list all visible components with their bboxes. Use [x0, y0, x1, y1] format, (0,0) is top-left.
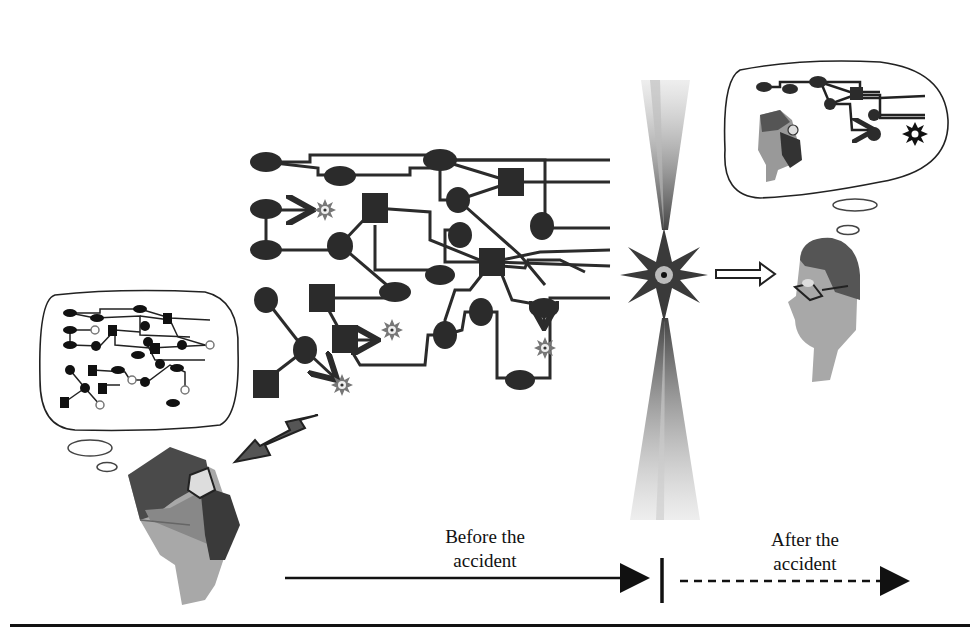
after-accident-label: After the accident: [730, 528, 880, 576]
hollow-arrow-to-observer: [716, 263, 775, 285]
accident-burst: [620, 80, 708, 520]
observer-head: [788, 238, 860, 382]
before-label-line1: Before the: [410, 525, 560, 549]
after-label-line2: accident: [730, 552, 880, 576]
bottom-rule: [10, 624, 970, 627]
surgeon-thought-bubble: [40, 291, 238, 472]
surgeon-head: [128, 447, 240, 605]
before-accident-label: Before the accident: [410, 525, 560, 573]
before-label-line2: accident: [410, 549, 560, 573]
jagged-arrow-to-surgeon: [235, 415, 318, 462]
observer-thought-bubble: [725, 61, 948, 235]
diagram-canvas: Before the accident After the accident: [0, 0, 980, 633]
after-label-line1: After the: [730, 528, 880, 552]
network-nodes: [250, 149, 559, 398]
